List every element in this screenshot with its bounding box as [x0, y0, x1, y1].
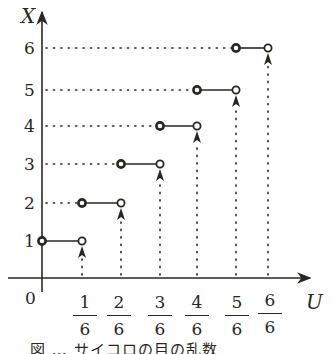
y-tick-2: 2	[24, 195, 35, 212]
x-tick-denominator: 6	[148, 319, 172, 339]
x-tick-5-6: 5 6	[225, 292, 249, 339]
x-tick-4-6: 4 6	[185, 292, 209, 339]
x-tick-denominator: 6	[107, 319, 131, 339]
x-axis-label: U	[306, 292, 323, 312]
fraction-bar	[225, 315, 249, 316]
x-tick-3-6: 3 6	[148, 292, 172, 339]
origin-label: 0	[25, 290, 36, 307]
y-tick-3: 3	[24, 156, 35, 173]
x-tick-numerator: 4	[185, 292, 209, 312]
x-tick-numerator: 3	[148, 292, 172, 312]
x-tick-1-6: 1 6	[73, 292, 97, 339]
fraction-bar	[107, 315, 131, 316]
x-tick-numerator: 1	[73, 292, 97, 312]
y-axis-label: X	[21, 6, 35, 26]
y-tick-4: 4	[24, 118, 35, 135]
vertical-guides	[82, 65, 268, 275]
x-tick-denominator: 6	[258, 317, 282, 337]
x-tick-numerator: 6	[258, 290, 282, 310]
y-tick-6: 6	[24, 40, 35, 57]
x-tick-denominator: 6	[225, 319, 249, 339]
x-tick-numerator: 5	[225, 292, 249, 312]
step-segments	[42, 48, 268, 241]
fraction-bar	[258, 313, 282, 314]
up-arrow-icons	[78, 53, 272, 258]
y-tick-5: 5	[24, 82, 35, 99]
horizontal-guides	[46, 48, 233, 203]
y-tick-1: 1	[24, 233, 35, 250]
open-endpoints	[78, 44, 271, 244]
fraction-bar	[185, 315, 209, 316]
x-tick-numerator: 2	[107, 292, 131, 312]
figure-caption: 図 … サイコロの目の乱数	[30, 338, 310, 354]
fraction-bar	[73, 315, 97, 316]
x-tick-denominator: 6	[185, 319, 209, 339]
x-tick-denominator: 6	[73, 319, 97, 339]
fraction-bar	[148, 315, 172, 316]
x-tick-2-6: 2 6	[107, 292, 131, 339]
x-tick-6-6: 6 6	[258, 290, 282, 337]
closed-endpoints	[38, 44, 239, 244]
